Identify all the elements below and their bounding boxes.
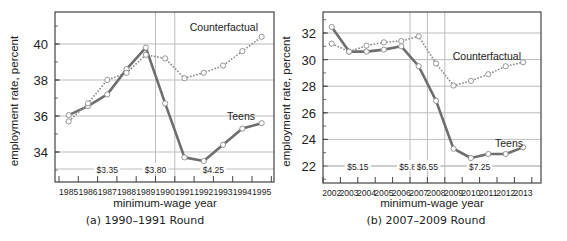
counterfactual-marker <box>105 77 110 82</box>
x-tick-label: 1995 <box>252 187 271 197</box>
x-tick-label: 1992 <box>194 187 213 197</box>
y-tick-label: 32 <box>302 26 316 41</box>
teens-marker <box>182 155 187 160</box>
counterfactual-marker <box>434 61 439 66</box>
counterfactual-marker <box>220 63 225 68</box>
panel-caption: (b) 2007–2009 Round <box>367 214 486 227</box>
x-tick-label: 1990 <box>156 187 175 197</box>
counterfactual-marker <box>521 60 526 65</box>
teens-marker <box>434 98 439 103</box>
counterfactual-line <box>69 37 262 122</box>
counterfactual-marker <box>451 83 456 88</box>
y-tick-label: 22 <box>302 159 316 174</box>
y-axis-label: employment rate, percent <box>8 35 20 166</box>
counterfactual-marker <box>124 70 129 75</box>
teens-marker <box>240 126 245 131</box>
x-tick-label: 1994 <box>233 187 252 197</box>
counterfactual-marker <box>381 40 386 45</box>
y-tick-label: 24 <box>302 132 316 147</box>
counterfactual-marker <box>503 64 508 69</box>
y-tick-label: 38 <box>34 73 48 88</box>
wage-level-label: $4.25 <box>203 165 225 175</box>
counterfactual-marker <box>399 38 404 43</box>
counterfactual-marker <box>329 41 334 46</box>
y-axis-label: employment rate, percent <box>280 36 292 167</box>
teens-marker <box>503 151 508 156</box>
teens-marker <box>105 92 110 97</box>
panel-caption: (a) 1990–1991 Round <box>86 214 205 227</box>
teens-marker <box>399 44 404 49</box>
wage-level-label: $3.35 <box>97 165 119 175</box>
x-tick-label: 1991 <box>175 187 194 197</box>
chart-panel-b: 2224262830322002200320042005200620072008… <box>280 12 541 227</box>
teens-marker <box>220 142 225 147</box>
chart-panel-a: 3436384019851986198719881989199019911992… <box>8 12 274 227</box>
x-tick-label: 1988 <box>117 187 136 197</box>
counterfactual-marker <box>163 56 168 61</box>
x-tick-label: 1989 <box>136 187 155 197</box>
counterfactual-marker <box>416 34 421 39</box>
wage-level-label: $3.80 <box>145 165 167 175</box>
counterfactual-marker <box>66 119 71 124</box>
x-tick-label: 1987 <box>98 187 117 197</box>
y-tick-label: 40 <box>34 37 48 52</box>
counterfactual-marker <box>486 72 491 77</box>
counterfactual-marker <box>143 52 148 57</box>
teens-marker <box>329 24 334 29</box>
counterfactual-marker <box>240 49 245 54</box>
counterfactual-marker <box>468 78 473 83</box>
counterfactual-marker <box>201 70 206 75</box>
teens-marker <box>66 113 71 118</box>
x-axis-label: minimum-wage year <box>380 197 484 209</box>
wage-level-label: $7.25 <box>469 162 491 172</box>
x-tick-label: 1985 <box>59 187 78 197</box>
plot-frame <box>323 12 541 183</box>
chart-canvas: 3436384019851986198719881989199019911992… <box>0 0 567 241</box>
teens-marker <box>143 45 148 50</box>
counterfactual-marker <box>182 76 187 81</box>
y-tick-label: 36 <box>34 109 48 124</box>
x-axis-label: minimum-wage year <box>113 197 217 209</box>
counterfactual-marker <box>85 101 90 106</box>
wage-level-label: $5.15 <box>347 162 369 172</box>
teens-marker <box>468 155 473 160</box>
y-tick-label: 26 <box>302 106 316 121</box>
x-tick-label: 1993 <box>213 187 232 197</box>
figure: 3436384019851986198719881989199019911992… <box>0 0 567 241</box>
series-label: Teens <box>227 110 255 122</box>
y-tick-label: 28 <box>302 79 316 94</box>
series-label: Teens <box>495 137 523 149</box>
counterfactual-marker <box>347 49 352 54</box>
teens-marker <box>416 64 421 69</box>
series-label: Counterfactual <box>190 21 258 33</box>
teens-marker <box>451 146 456 151</box>
teens-marker <box>201 158 206 163</box>
series-label: Counterfactual <box>453 50 521 62</box>
plot-frame <box>55 12 274 182</box>
wage-level-label: $6.55 <box>417 162 439 172</box>
counterfactual-marker <box>364 43 369 48</box>
teens-marker <box>486 151 491 156</box>
teens-marker <box>364 49 369 54</box>
counterfactual-marker <box>259 34 264 39</box>
y-tick-label: 34 <box>34 145 48 160</box>
x-tick-label: 1986 <box>78 187 97 197</box>
x-tick-label: 2013 <box>514 188 533 198</box>
teens-marker <box>163 101 168 106</box>
teens-marker <box>259 121 264 126</box>
y-tick-label: 30 <box>302 53 316 68</box>
teens-marker <box>381 47 386 52</box>
